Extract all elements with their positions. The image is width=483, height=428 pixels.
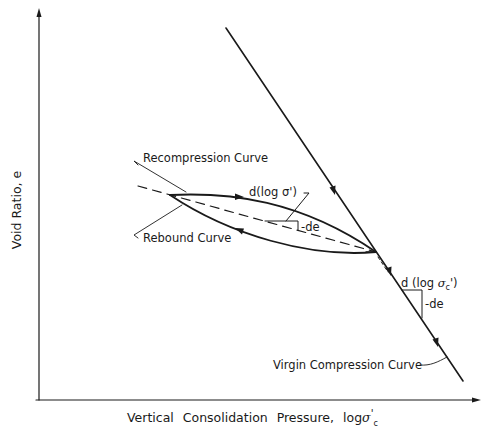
recompression-curve-label: Recompression Curve [143, 153, 268, 165]
x-axis-arrowhead-icon [472, 398, 481, 403]
x-axis-label-sub: c [374, 419, 378, 428]
virgin-slope-run-label: d (log σc') [401, 278, 458, 292]
virgin-leader [420, 357, 447, 365]
virgin-extension-dashed [378, 257, 388, 272]
y-axis-arrowhead-icon [37, 8, 42, 17]
x-axis-label-prime: ' [371, 407, 374, 419]
loop-slope-run-label: d(log σ') [249, 187, 297, 199]
x-axis-label-sigma: σ [362, 410, 371, 425]
virgin-compression-line [226, 28, 463, 381]
virgin-slope-rise-label: -de [425, 299, 444, 311]
rebound-curve-label: Rebound Curve [143, 233, 231, 245]
virgin-slope-run-prefix: d (log [401, 276, 434, 290]
virgin-compression-curve-label: Virgin Compression Curve [273, 360, 422, 372]
loop-slope-rise-label: -de [301, 222, 320, 234]
x-axis-label-log: log [343, 410, 362, 425]
virgin-arrow-icon [433, 338, 439, 348]
x-axis-label: Vertical Consolidation Pressure, logσ'c [127, 407, 378, 428]
rebound-arrow-icon [235, 228, 244, 235]
y-axis-label: Void Ratio, e [9, 171, 24, 249]
virgin-slope-run-suffix: ') [450, 276, 458, 290]
virgin-arrow-icon [330, 186, 336, 196]
virgin-slope-run-sigma: σ [438, 276, 446, 290]
x-axis-label-text: Vertical Consolidation Pressure, [127, 410, 334, 425]
